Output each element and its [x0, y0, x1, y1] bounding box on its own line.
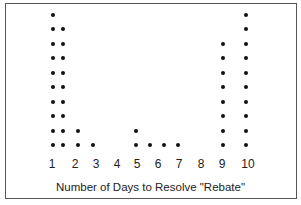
data-dot [221, 56, 225, 60]
data-dot [51, 56, 55, 60]
data-dot [221, 71, 225, 75]
data-dot [51, 85, 55, 89]
x-tick-label: 1 [49, 157, 56, 171]
data-dot [76, 129, 80, 133]
data-dot [76, 143, 80, 147]
data-dot [162, 143, 166, 147]
data-dot [221, 143, 225, 147]
data-dot [61, 143, 65, 147]
x-axis-label: Number of Days to Resolve "Rebate" [0, 181, 301, 193]
data-dot [61, 56, 65, 60]
data-dot [51, 42, 55, 46]
data-dot [244, 143, 248, 147]
data-dot [244, 85, 248, 89]
data-dot [244, 27, 248, 31]
data-dot [91, 143, 95, 147]
x-tick-label: 9 [219, 157, 226, 171]
data-dot [61, 100, 65, 104]
data-dot [51, 27, 55, 31]
data-dot [221, 114, 225, 118]
x-tick-label: 7 [176, 157, 183, 171]
data-dot [61, 85, 65, 89]
data-dot [134, 143, 138, 147]
data-dot [51, 100, 55, 104]
data-dot [51, 13, 55, 17]
x-tick-label: 4 [114, 157, 121, 171]
data-dot [221, 42, 225, 46]
data-dot [244, 114, 248, 118]
data-dot [51, 129, 55, 133]
data-dot [61, 129, 65, 133]
data-dot [61, 27, 65, 31]
x-tick-label: 10 [241, 157, 254, 171]
data-dot [221, 129, 225, 133]
x-tick-label: 3 [93, 157, 100, 171]
x-tick-label: 5 [134, 157, 141, 171]
data-dot [221, 100, 225, 104]
data-dot [244, 129, 248, 133]
x-tick-label: 6 [155, 157, 162, 171]
data-dot [61, 42, 65, 46]
data-dot [176, 143, 180, 147]
data-dot [244, 71, 248, 75]
data-dot [51, 143, 55, 147]
data-dot [244, 13, 248, 17]
data-dot [244, 42, 248, 46]
data-dot [61, 71, 65, 75]
data-dot [221, 85, 225, 89]
data-dot [244, 100, 248, 104]
data-dot [51, 71, 55, 75]
x-tick-label: 2 [72, 157, 79, 171]
x-tick-label: 8 [198, 157, 205, 171]
data-dot [148, 143, 152, 147]
data-dot [244, 56, 248, 60]
data-dot [134, 129, 138, 133]
data-dot [61, 114, 65, 118]
data-dot [51, 114, 55, 118]
